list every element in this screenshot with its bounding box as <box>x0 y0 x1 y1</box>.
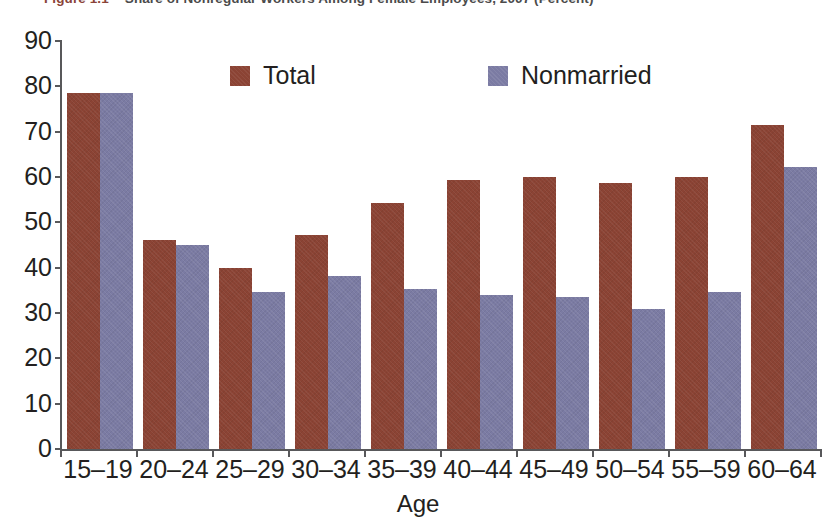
x-axis-tick-label: 35–39 <box>364 455 440 484</box>
bar-total[interactable] <box>599 183 632 449</box>
figure-title: Figure 1.1Share of Nonregular Workers Am… <box>44 0 804 9</box>
bar-nonmarried[interactable] <box>708 292 741 449</box>
figure-number: Figure 1.1 <box>44 0 109 6</box>
y-axis-tick <box>55 40 62 42</box>
plot-inner <box>62 41 822 449</box>
y-axis-tick-label: 10 <box>0 391 52 416</box>
bar-nonmarried[interactable] <box>784 167 817 449</box>
bar-nonmarried[interactable] <box>480 295 513 449</box>
y-axis-tick-label: 80 <box>0 73 52 98</box>
bar-nonmarried[interactable] <box>328 276 361 449</box>
x-axis-tick-label: 25–29 <box>212 455 288 484</box>
x-axis-tick-label: 55–59 <box>668 455 744 484</box>
bar-group <box>219 41 285 449</box>
y-axis-tick-labels: 0102030405060708090 <box>0 41 52 449</box>
x-axis-tick <box>820 449 822 457</box>
bar-total[interactable] <box>371 203 404 449</box>
bar-group <box>295 41 361 449</box>
y-axis-tick <box>55 312 62 314</box>
chart-legend: Total Nonmarried <box>230 63 630 93</box>
y-axis-tick <box>55 221 62 223</box>
bar-nonmarried[interactable] <box>632 309 665 449</box>
y-axis-tick-label: 70 <box>0 119 52 144</box>
x-axis-tick-label: 60–64 <box>744 455 820 484</box>
legend-entry-total: Total <box>230 63 316 88</box>
y-axis-tick <box>55 85 62 87</box>
legend-entry-nonmarried: Nonmarried <box>488 63 652 88</box>
x-axis-title: Age <box>0 490 836 518</box>
y-axis-tick <box>55 131 62 133</box>
bar-group <box>67 41 133 449</box>
bar-nonmarried[interactable] <box>176 245 209 449</box>
plot-area <box>60 41 822 451</box>
x-axis-tick-label: 20–24 <box>136 455 212 484</box>
bar-group <box>523 41 589 449</box>
bar-total[interactable] <box>751 125 784 449</box>
bar-group <box>751 41 817 449</box>
y-axis-tick-label: 50 <box>0 209 52 234</box>
y-axis-tick <box>55 176 62 178</box>
bar-nonmarried[interactable] <box>404 289 437 449</box>
y-axis-tick <box>55 267 62 269</box>
bar-total[interactable] <box>295 235 328 449</box>
y-axis-tick <box>55 403 62 405</box>
bar-group <box>675 41 741 449</box>
y-axis-tick-label: 40 <box>0 255 52 280</box>
legend-label-nonmarried: Nonmarried <box>521 63 652 88</box>
legend-label-total: Total <box>263 63 316 88</box>
bar-nonmarried[interactable] <box>556 297 589 449</box>
y-axis-tick-label: 0 <box>0 436 52 461</box>
legend-swatch-total-icon <box>230 66 250 86</box>
bar-total[interactable] <box>219 268 252 449</box>
bar-nonmarried[interactable] <box>252 292 285 449</box>
bar-nonmarried[interactable] <box>100 93 133 449</box>
x-axis-tick-label: 30–34 <box>288 455 364 484</box>
x-axis-tick-label: 50–54 <box>592 455 668 484</box>
figure-page: Figure 1.1Share of Nonregular Workers Am… <box>0 0 836 524</box>
y-axis-tick-label: 60 <box>0 164 52 189</box>
y-axis-tick-label: 20 <box>0 345 52 370</box>
bar-group <box>447 41 513 449</box>
bar-group <box>143 41 209 449</box>
x-axis-tick-label: 15–19 <box>60 455 136 484</box>
bar-total[interactable] <box>67 93 100 449</box>
x-axis-tick-label: 40–44 <box>440 455 516 484</box>
figure-caption: Share of Nonregular Workers Among Female… <box>125 0 594 6</box>
bar-total[interactable] <box>523 177 556 449</box>
y-axis-tick <box>55 357 62 359</box>
x-axis-tick-label: 45–49 <box>516 455 592 484</box>
y-axis-tick-label: 90 <box>0 28 52 53</box>
y-axis-tick-label: 30 <box>0 300 52 325</box>
legend-swatch-nonmarried-icon <box>488 66 508 86</box>
bar-total[interactable] <box>675 177 708 449</box>
bar-group <box>599 41 665 449</box>
bar-group <box>371 41 437 449</box>
bar-total[interactable] <box>143 240 176 449</box>
x-axis-tick <box>60 449 62 457</box>
bar-total[interactable] <box>447 180 480 449</box>
